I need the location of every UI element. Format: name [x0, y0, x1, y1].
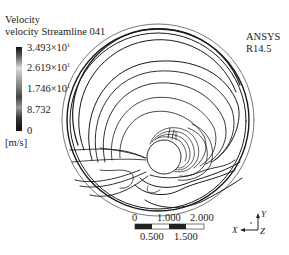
scale-label-0500: 0.500	[140, 231, 164, 243]
axis-label-x: X	[232, 224, 238, 236]
scale-label-1500: 1.500	[174, 231, 198, 243]
axis-label-y: Y	[261, 208, 266, 220]
scale-bar	[135, 224, 204, 229]
streamline-plot	[0, 0, 289, 255]
axis-label-z: Z	[260, 225, 265, 237]
scale-label-2000: 2.000	[190, 212, 214, 224]
scale-label-0: 0	[132, 212, 137, 224]
cylinder-obstacle	[147, 140, 181, 174]
scale-label-1000: 1.000	[157, 212, 181, 224]
axes-triad	[240, 213, 260, 232]
